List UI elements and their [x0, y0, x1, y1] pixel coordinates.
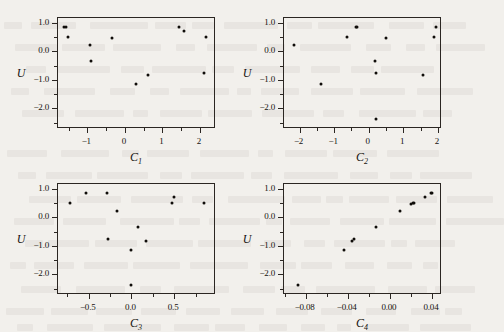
y-axis-minor-tick	[280, 260, 284, 261]
x-axis-minor-tick	[411, 293, 412, 297]
x-axis-tick	[306, 293, 307, 299]
y-axis-tick-label: 0.0	[264, 211, 275, 221]
panel-c4-y-axis-title: U	[243, 231, 252, 246]
data-point	[413, 202, 416, 205]
data-point	[352, 238, 355, 241]
x-axis-tick	[432, 293, 433, 299]
x-axis-tick	[390, 293, 391, 299]
y-axis-tick-label: −2.0	[259, 268, 275, 278]
data-point	[375, 225, 378, 228]
y-axis-tick-label: −1.0	[259, 240, 275, 250]
y-axis-tick	[278, 274, 284, 275]
y-axis-minor-tick	[280, 289, 284, 290]
x-axis-minor-tick	[327, 293, 328, 297]
data-point	[343, 249, 346, 252]
x-axis-minor-tick	[285, 293, 286, 297]
x-axis-tick-label: −0.08	[295, 302, 315, 312]
data-point	[399, 210, 402, 213]
panel-c4-x-axis-title: C4	[356, 316, 368, 332]
y-axis-minor-tick	[280, 203, 284, 204]
y-axis-tick	[278, 246, 284, 247]
data-point	[430, 191, 433, 194]
x-axis-tick-label: −0.04	[337, 302, 357, 312]
y-axis-minor-tick	[280, 232, 284, 233]
x-axis-tick-label: 0.04	[424, 302, 439, 312]
data-point	[423, 196, 426, 199]
x-axis-tick-label: 0.00	[381, 302, 396, 312]
x-axis-tick	[348, 293, 349, 299]
y-axis-tick-label: 1.0	[264, 183, 275, 193]
data-point	[296, 284, 299, 287]
x-axis-minor-tick	[369, 293, 370, 297]
panel-c4-plot-area	[283, 183, 441, 294]
y-axis-tick	[278, 189, 284, 190]
y-axis-tick	[278, 217, 284, 218]
